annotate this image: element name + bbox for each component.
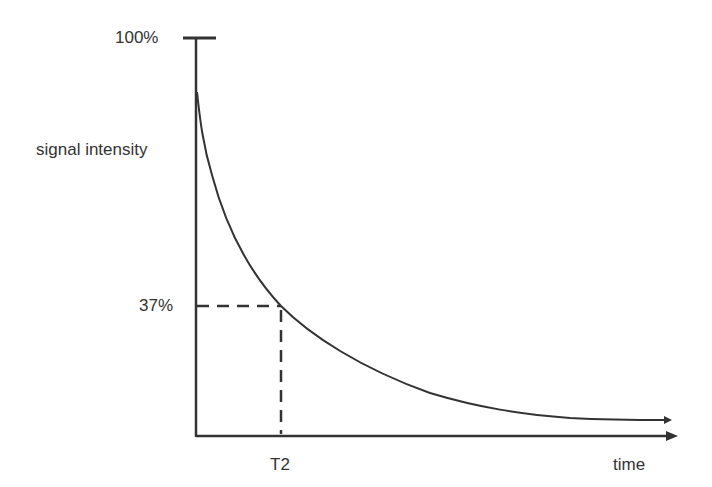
y-top-label: 100% — [115, 28, 158, 48]
x-axis-arrowhead — [666, 431, 678, 441]
decay-curve — [197, 92, 668, 420]
curve-end-arrowhead — [664, 416, 672, 424]
y-37-percent-label: 37% — [139, 296, 173, 316]
x-axis-label: time — [613, 455, 645, 475]
x-t2-label: T2 — [270, 455, 290, 475]
t2-decay-diagram — [0, 0, 712, 487]
y-axis-label: signal intensity — [36, 140, 148, 160]
